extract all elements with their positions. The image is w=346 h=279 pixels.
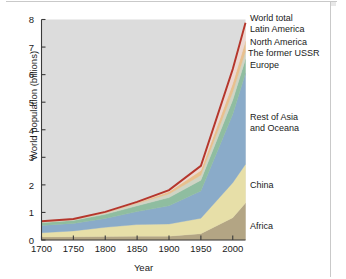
series-label-china: China	[250, 180, 274, 191]
series-label-and-oceana: and Oceana	[250, 123, 299, 134]
x-tick-label-1800: 1800	[88, 243, 122, 254]
x-axis-title: Year	[41, 262, 246, 273]
x-tick-label-1750: 1750	[56, 243, 90, 254]
x-tick-label-1850: 1850	[120, 243, 154, 254]
x-tick-label-1900: 1900	[152, 243, 186, 254]
x-tick-label-2000: 2000	[216, 243, 250, 254]
y-tick-label-1: 1	[22, 207, 34, 218]
y-tick-label-4: 4	[22, 125, 34, 136]
y-tick-label-7: 7	[22, 42, 34, 53]
series-label-world-total: World total	[250, 13, 293, 24]
series-label-rest-of-asia: Rest of Asia	[250, 112, 298, 123]
series-label-latin-america: Latin America	[250, 24, 305, 35]
series-label-north-america: North America	[250, 37, 307, 48]
x-tick-label-1700: 1700	[25, 243, 59, 254]
x-tick-label-1950: 1950	[184, 243, 218, 254]
y-tick-label-8: 8	[22, 14, 34, 25]
series-label-former-ussr: The former USSR	[248, 48, 320, 59]
series-label-africa: Africa	[250, 221, 273, 232]
y-tick-label-6: 6	[22, 69, 34, 80]
page-canvas: World population (billions) Year 0 1 2 3…	[0, 0, 346, 279]
stacked-area-chart-figure: World population (billions) Year 0 1 2 3…	[0, 0, 346, 279]
series-label-europe: Europe	[250, 60, 279, 71]
y-tick-label-3: 3	[22, 152, 34, 163]
y-tick-label-2: 2	[22, 180, 34, 191]
y-tick-label-5: 5	[22, 97, 34, 108]
